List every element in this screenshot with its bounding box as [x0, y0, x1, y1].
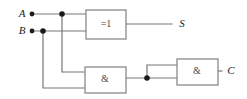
wire-b-branch-to-and1 — [43, 31, 85, 88]
junction-dot-carry-branch — [144, 75, 150, 81]
input-label-a: A — [18, 7, 26, 19]
input-b-terminal-dot — [30, 29, 35, 34]
input-label-b: B — [19, 24, 26, 36]
circuit-canvas: =1 & & A B S C — [0, 0, 247, 99]
logic-circuit-diagram: =1 & & A B S C — [0, 0, 247, 99]
wire-a-branch-to-and1 — [62, 14, 85, 72]
output-label-s: S — [179, 17, 185, 29]
and-gate-2-label: & — [193, 65, 201, 76]
input-a-terminal-dot — [30, 12, 35, 17]
and-gate-1-label: & — [101, 73, 109, 84]
junction-dot-b-branch — [40, 28, 46, 34]
wire-carry-branch-to-and2 — [147, 65, 177, 78]
xor-gate-label: =1 — [101, 18, 112, 29]
junction-dot-a-branch — [59, 11, 65, 17]
input-terminal-group — [30, 12, 35, 34]
output-label-c: C — [227, 64, 235, 76]
